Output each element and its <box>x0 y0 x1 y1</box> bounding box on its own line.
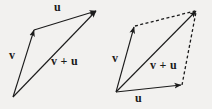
right-label-v: v <box>112 52 118 64</box>
right-vector-u-arrow <box>116 85 181 92</box>
right-parallelogram-rule-group <box>116 11 196 92</box>
vector-addition-figure: u v v + u v v + u u <box>0 0 212 109</box>
left-label-u: u <box>54 1 61 13</box>
left-label-v: v <box>9 49 15 61</box>
right-label-u: u <box>135 92 142 104</box>
right-label-v-plus-u: v + u <box>150 59 177 71</box>
left-label-v-plus-u: v + u <box>51 55 78 67</box>
vector-diagram-canvas <box>0 0 212 109</box>
right-dashed-top-edge <box>135 11 195 26</box>
right-vector-sum-arrow <box>116 11 196 92</box>
left-vector-v-arrow <box>13 30 34 97</box>
